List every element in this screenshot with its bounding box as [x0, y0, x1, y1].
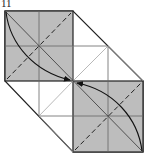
origami-diagram	[0, 0, 145, 156]
